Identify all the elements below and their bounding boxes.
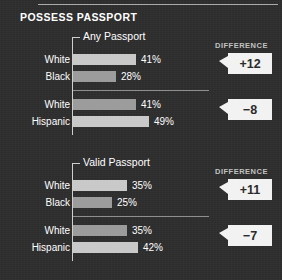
- bar-row-label: White: [0, 53, 70, 66]
- group-separator: [73, 90, 209, 91]
- callout-tail-icon: [219, 56, 228, 68]
- bar-value: 28%: [121, 70, 141, 83]
- bar-value: 25%: [117, 196, 137, 209]
- difference-callout: +12: [228, 53, 272, 74]
- difference-callout: −8: [228, 99, 272, 120]
- bar: [73, 54, 136, 65]
- section-label: Any Passport: [83, 30, 145, 42]
- bar-row-label: Black: [0, 70, 70, 83]
- group-separator: [73, 216, 209, 217]
- bar-value: 35%: [132, 224, 152, 237]
- section-bracket-stub: [72, 163, 80, 164]
- bar-row-label: White: [0, 224, 70, 237]
- page-title: POSSESS PASSPORT: [20, 11, 137, 23]
- difference-header: DIFFERENCE: [215, 41, 268, 50]
- difference-value: −8: [243, 103, 257, 117]
- bar-value: 42%: [143, 241, 163, 254]
- chart-panel: POSSESS PASSPORT Any Passport White 41% …: [0, 0, 282, 280]
- bar: [73, 180, 127, 191]
- bar-value: 41%: [141, 53, 161, 66]
- section-bracket-stub: [72, 37, 80, 38]
- difference-callout: −7: [228, 225, 272, 246]
- bar-row-label: Black: [0, 196, 70, 209]
- difference-header: DIFFERENCE: [215, 167, 268, 176]
- bar-value: 49%: [154, 115, 174, 128]
- difference-callout: +11: [228, 179, 272, 200]
- section-label: Valid Passport: [83, 156, 150, 168]
- difference-value: +12: [239, 57, 260, 71]
- bar-row-label: White: [0, 179, 70, 192]
- bar: [73, 197, 112, 208]
- bar-value: 35%: [132, 179, 152, 192]
- bar-row-label: Hispanic: [0, 115, 70, 128]
- bar-row-label: White: [0, 98, 70, 111]
- bar-value: 41%: [141, 98, 161, 111]
- bar: [73, 99, 136, 110]
- bar: [73, 116, 149, 127]
- bar-row-label: Hispanic: [0, 241, 70, 254]
- bar: [73, 71, 116, 82]
- bar: [73, 225, 127, 236]
- callout-tail-icon: [219, 182, 228, 194]
- bar: [73, 242, 138, 253]
- difference-value: +11: [240, 183, 261, 197]
- difference-value: −7: [243, 229, 257, 243]
- callout-tail-icon: [219, 228, 228, 240]
- callout-tail-icon: [219, 102, 228, 114]
- top-divider: [38, 4, 278, 5]
